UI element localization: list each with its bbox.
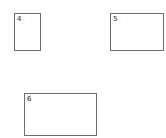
box-6[interactable]: 6 bbox=[24, 93, 97, 136]
box-label: 5 bbox=[113, 15, 117, 23]
box-5[interactable]: 5 bbox=[110, 13, 164, 51]
box-4[interactable]: 4 bbox=[14, 13, 41, 51]
box-label: 4 bbox=[17, 15, 21, 23]
box-label: 6 bbox=[27, 95, 31, 103]
